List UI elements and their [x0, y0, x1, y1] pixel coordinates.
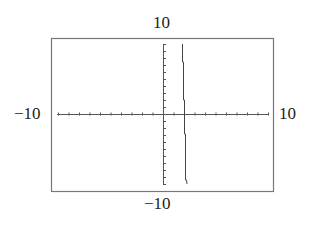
- xmin-label: −10: [14, 105, 41, 122]
- ymax-label: 10: [153, 14, 170, 31]
- ymin-label: −10: [144, 195, 171, 212]
- graph-screen: [0, 0, 311, 227]
- xmax-label: 10: [279, 105, 296, 122]
